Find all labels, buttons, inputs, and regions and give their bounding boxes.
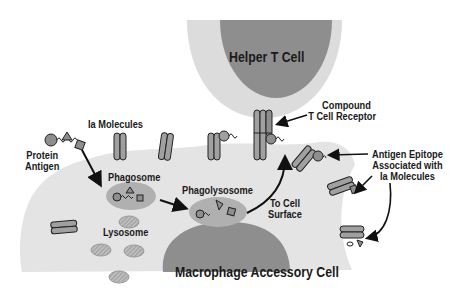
lysosome bbox=[109, 271, 129, 283]
lysosome-label: Lysosome bbox=[103, 227, 148, 238]
phagolysosome-label: Phagolysosome bbox=[182, 185, 253, 196]
arrow-epitope-label-2 bbox=[356, 176, 372, 192]
phagosome-label: Phagosome bbox=[108, 172, 160, 183]
to-cell-surface-label: To Cell Surface bbox=[268, 198, 302, 220]
epitope-label: Antigen Epitope Associated with Ia Molec… bbox=[372, 149, 443, 182]
arrow-epitope-label-3 bbox=[368, 183, 391, 238]
ia-molecules-label: Ia Molecules bbox=[88, 119, 143, 130]
compound-receptor-label: Compound T Cell Receptor bbox=[317, 100, 376, 122]
arrow-epitope-label-1 bbox=[330, 154, 368, 155]
lysosome bbox=[91, 244, 111, 256]
ia-molecule-horizontal bbox=[51, 220, 78, 234]
protein-antigen-label: Protein Antigen bbox=[25, 150, 59, 172]
ia-molecule bbox=[114, 133, 126, 160]
arrow-compound-label bbox=[278, 115, 307, 124]
lysosome bbox=[124, 245, 144, 257]
macrophage-label: Macrophage Accessory Cell bbox=[175, 265, 339, 280]
protein-antigen bbox=[45, 132, 85, 150]
helper-t-cell-label: Helper T Cell bbox=[229, 50, 304, 65]
